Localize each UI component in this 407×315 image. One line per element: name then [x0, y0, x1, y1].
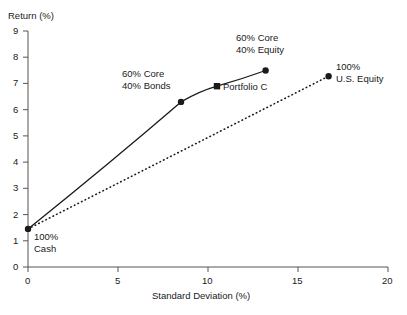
- y-tick-label-5: 5: [13, 130, 18, 141]
- data-point-portfolio-c: [214, 83, 220, 89]
- annotation-core-bonds-line1: 60% Core: [122, 68, 164, 80]
- annotation-us-equity-line2: U.S. Equity: [336, 73, 384, 85]
- y-tick-label-9: 9: [13, 25, 18, 36]
- y-tick-label-2: 2: [13, 209, 18, 220]
- axis-lines: [28, 31, 388, 267]
- y-axis-title: Return (%): [8, 10, 54, 21]
- y-tick-label-7: 7: [13, 77, 18, 88]
- y-tick-label-8: 8: [13, 51, 18, 62]
- efficient-frontier-curve: [28, 71, 266, 229]
- data-point-core-bonds: [178, 99, 184, 105]
- investment-frontier-chart: Return (%) Standard Deviation (%) 9 8 7 …: [0, 0, 407, 315]
- x-axis-ticks: [28, 267, 388, 272]
- y-tick-label-6: 6: [13, 104, 18, 115]
- x-tick-label-20: 20: [382, 275, 393, 286]
- annotation-core-bonds-line2: 40% Bonds: [122, 80, 171, 92]
- cash-to-us-equity-dotted-line: [28, 76, 329, 229]
- chart-canvas: [0, 0, 407, 315]
- annotation-cash-line1: 100%: [34, 231, 58, 243]
- y-tick-label-4: 4: [13, 156, 18, 167]
- y-tick-label-0: 0: [13, 261, 18, 272]
- x-tick-label-0: 0: [25, 275, 30, 286]
- annotation-portfolio-c: Portfolio C: [223, 81, 267, 93]
- x-tick-label-5: 5: [115, 275, 120, 286]
- x-tick-label-15: 15: [292, 275, 303, 286]
- y-tick-label-1: 1: [13, 235, 18, 246]
- data-point-cash: [25, 226, 31, 232]
- x-tick-label-10: 10: [202, 275, 213, 286]
- annotation-core-equity-line1: 60% Core: [236, 32, 278, 44]
- data-point-us-equity: [325, 73, 331, 79]
- annotation-cash-line2: Cash: [34, 243, 56, 255]
- x-axis-title: Standard Deviation (%): [152, 290, 250, 301]
- y-tick-label-3: 3: [13, 182, 18, 193]
- annotation-core-equity-line2: 40% Equity: [236, 44, 284, 56]
- annotation-us-equity-line1: 100%: [336, 61, 360, 73]
- data-point-core-equity: [262, 67, 268, 73]
